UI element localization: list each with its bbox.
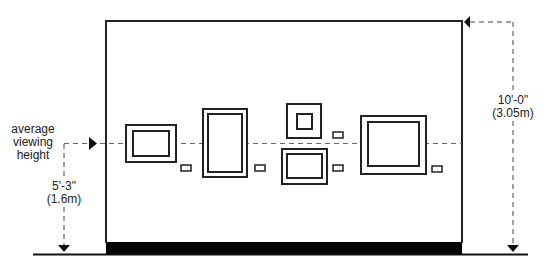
eye-height-label: 5'-3" (1.6m) — [44, 180, 84, 206]
label-3 — [333, 132, 343, 138]
wall-height-metric: (3.05m) — [490, 107, 536, 120]
eye-floor-arrow-icon — [58, 245, 70, 252]
frame-1-inner — [133, 131, 169, 156]
wall-height-label: 10'-0" (3.05m) — [490, 94, 536, 120]
label-1 — [181, 165, 191, 171]
label-5 — [432, 166, 442, 172]
wall-diagram — [0, 0, 554, 270]
eye-height-metric: (1.6m) — [44, 193, 84, 206]
wall-floor-arrow-icon — [507, 245, 519, 252]
frame-2-inner — [208, 114, 242, 172]
wall-top-arrow-icon — [464, 16, 470, 28]
baseboard — [106, 242, 462, 254]
frame-4-inner — [287, 154, 322, 178]
viewing-label-line3: height — [2, 149, 64, 162]
frame-3-inner — [297, 114, 312, 129]
label-2 — [255, 165, 265, 171]
viewing-height-label: average viewing height — [2, 123, 64, 162]
label-4 — [333, 165, 343, 171]
viewing-arrow-icon — [89, 137, 97, 150]
frame-5-inner — [368, 122, 419, 166]
